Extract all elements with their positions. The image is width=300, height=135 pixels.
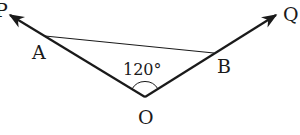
ray-oq <box>145 15 276 97</box>
label-o: O <box>138 106 154 128</box>
angle-arc <box>132 81 158 89</box>
ray-op <box>10 15 145 97</box>
geometry-diagram: P Q A B O 120° <box>0 0 300 135</box>
angle-label: 120° <box>123 60 162 79</box>
label-a: A <box>31 41 46 63</box>
label-b: B <box>217 55 231 77</box>
label-p: P <box>0 0 8 21</box>
label-q: Q <box>283 3 299 25</box>
